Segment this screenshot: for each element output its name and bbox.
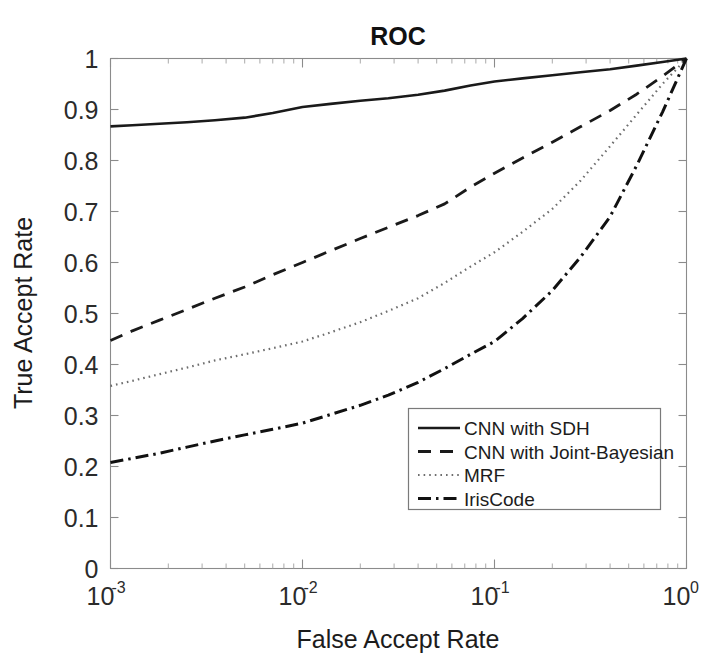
data-series-group: [111, 59, 687, 463]
chart-title: ROC: [370, 22, 426, 50]
y-tick-label: 0.8: [64, 147, 99, 175]
x-tick-label: 100: [663, 579, 699, 610]
x-tick-label-exponent: 0: [690, 579, 699, 596]
y-tick-label: 0.2: [64, 453, 99, 481]
x-tick-label: 10-3: [87, 579, 126, 610]
x-tick-label-exponent: -2: [303, 579, 317, 596]
chart-canvas: 00.10.20.30.40.50.60.70.80.91 10-310-210…: [0, 0, 722, 663]
series-line-1: [111, 59, 687, 341]
legend: CNN with SDHCNN with Joint-BayesianMRFIr…: [409, 409, 675, 510]
x-tick-label-base: 10: [663, 582, 691, 610]
y-tick-label: 0.4: [64, 351, 99, 379]
series-line-3: [111, 59, 687, 463]
x-tick-label: 10-2: [279, 579, 318, 610]
y-tick-label: 0.1: [64, 504, 99, 532]
legend-label-1: CNN with Joint-Bayesian: [464, 442, 674, 463]
x-tick-label-exponent: -3: [111, 579, 125, 596]
roc-chart-figure: 00.10.20.30.40.50.60.70.80.91 10-310-210…: [0, 0, 722, 663]
y-axis-title: True Accept Rate: [9, 217, 37, 409]
x-axis-tick-labels: 10-310-210-1100: [87, 579, 699, 610]
x-tick-label-base: 10: [471, 582, 499, 610]
y-tick-label: 0.5: [64, 300, 99, 328]
y-tick-label: 0.9: [64, 96, 99, 124]
x-tick-label: 10-1: [471, 579, 510, 610]
y-tick-label: 0.3: [64, 402, 99, 430]
legend-label-0: CNN with SDH: [464, 418, 590, 439]
x-tick-label-exponent: -1: [495, 579, 509, 596]
y-axis-tick-labels: 00.10.20.30.40.50.60.70.80.91: [64, 45, 99, 583]
y-tick-label: 0.6: [64, 249, 99, 277]
x-axis-title: False Accept Rate: [297, 625, 500, 653]
x-tick-label-base: 10: [279, 582, 307, 610]
legend-label-2: MRF: [464, 465, 505, 486]
y-tick-label: 0: [85, 555, 99, 583]
x-tick-label-base: 10: [87, 582, 115, 610]
y-tick-label: 1: [85, 45, 99, 73]
y-tick-label: 0.7: [64, 198, 99, 226]
legend-label-3: IrisCode: [464, 489, 535, 510]
